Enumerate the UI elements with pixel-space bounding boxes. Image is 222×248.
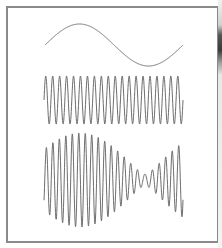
low-frequency-sine-wave (45, 24, 183, 66)
beat-modulated-wave (44, 133, 183, 227)
waveform-diagram (0, 0, 222, 248)
high-frequency-carrier-wave (44, 76, 183, 124)
